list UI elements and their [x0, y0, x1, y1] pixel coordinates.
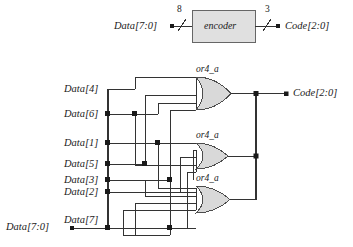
top-input-label: Data[7:0]: [114, 21, 157, 32]
dot-data1-branch: [155, 140, 160, 145]
input-label-data7: Data[7]: [64, 215, 98, 226]
input-label-data6: Data[6]: [64, 109, 98, 120]
top-output-bus-slash: [263, 19, 271, 31]
junction-dots: [105, 91, 289, 230]
top-output-bus-width: 3: [265, 5, 270, 15]
dot-data5-branch: [142, 161, 147, 166]
dot-data6: [105, 111, 110, 116]
input-label-data2: Data[2]: [64, 187, 98, 198]
dot-bus-code2: [254, 91, 259, 96]
circuit-schematic: [0, 0, 353, 247]
dot-data7-branch: [167, 225, 172, 230]
dot-data6-branch: [132, 111, 137, 116]
dot-data3-branch: [167, 177, 172, 182]
gate-3-name: or4_a: [196, 174, 219, 184]
top-output-label: Code[2:0]: [285, 21, 329, 32]
or-gate-3: [196, 186, 230, 213]
encoder-block-label: encoder: [204, 21, 236, 31]
code-output-terminal: [284, 92, 289, 97]
gate-1-name: or4_a: [196, 65, 219, 75]
dot-data2: [105, 189, 110, 194]
top-input-bus-width: 8: [177, 5, 182, 15]
bus-source-terminal: [70, 226, 74, 230]
dot-data5: [105, 161, 110, 166]
dot-data1: [105, 140, 110, 145]
input-label-data1: Data[1]: [64, 138, 98, 149]
dot-data7: [105, 225, 110, 230]
input-label-data3: Data[3]: [64, 175, 98, 186]
figure-canvas: Data[7:0] 8 encoder 3 Code[2:0] Data[4] …: [0, 0, 353, 247]
top-input-bus-slash: [178, 19, 186, 31]
output-label-code20: Code[2:0]: [293, 88, 337, 99]
top-output-terminal: [276, 24, 280, 28]
top-input-terminal: [170, 24, 174, 28]
or-gate-1: [196, 77, 231, 110]
dot-data3: [105, 177, 110, 182]
bus-label-data70: Data[7:0]: [6, 222, 49, 233]
gate-2-name: or4_a: [196, 131, 219, 141]
input-label-data4: Data[4]: [64, 84, 98, 95]
dot-bus-code1: [254, 154, 259, 159]
input-label-data5: Data[5]: [64, 159, 98, 170]
or-gate-2: [196, 143, 228, 169]
